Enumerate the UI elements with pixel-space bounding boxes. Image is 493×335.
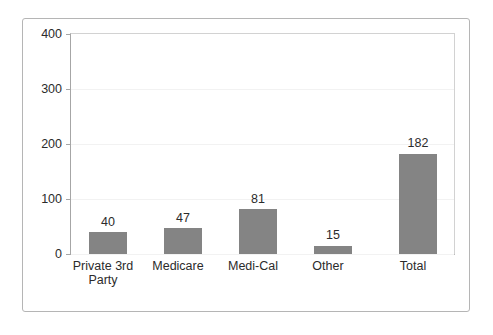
bar-medi-cal[interactable]: 81 — [239, 209, 277, 254]
bar-private-3rd-party[interactable]: 40 — [89, 232, 127, 254]
y-tick-3 — [66, 89, 71, 90]
y-axis-label-2: 200 — [41, 138, 62, 151]
bar-value-private-3rd-party: 40 — [101, 216, 115, 229]
y-tick-2 — [66, 144, 71, 145]
bar-value-total: 182 — [408, 137, 429, 150]
gridline-0 — [71, 254, 454, 255]
chart-figure: 0 100 200 300 400 40 47 81 — [22, 18, 470, 312]
y-axis-label-4: 400 — [41, 28, 62, 41]
y-tick-4 — [66, 34, 71, 35]
bar-value-other: 15 — [326, 229, 340, 242]
y-tick-1 — [66, 199, 71, 200]
x-axis-label-total: Total — [358, 259, 468, 273]
bar-value-medicare: 47 — [176, 212, 190, 225]
y-axis-label-1: 100 — [41, 193, 62, 206]
y-axis-label-3: 300 — [41, 83, 62, 96]
bar-total[interactable]: 182 — [399, 154, 437, 254]
bar-other[interactable]: 15 — [314, 246, 352, 254]
plot-area: 0 100 200 300 400 40 47 81 — [70, 33, 455, 255]
gridline-3 — [71, 89, 454, 90]
gridline-2 — [71, 144, 454, 145]
y-tick-0 — [66, 254, 71, 255]
bar-medicare[interactable]: 47 — [164, 228, 202, 254]
bar-value-medi-cal: 81 — [251, 193, 265, 206]
